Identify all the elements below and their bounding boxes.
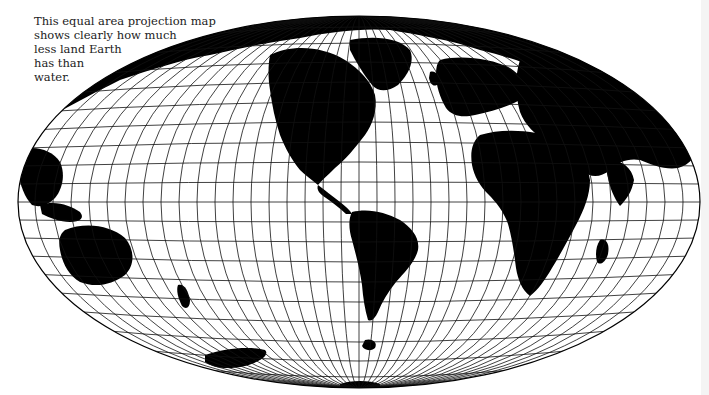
world-map [0,0,709,395]
